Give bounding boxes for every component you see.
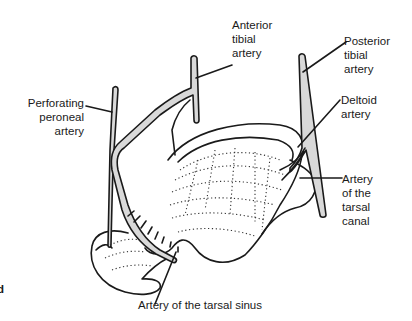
leader-posterior-tibial xyxy=(303,42,346,72)
label-artery-of-tarsal-canal: Artery of the tarsal canal xyxy=(342,172,373,228)
trabecular-stipple xyxy=(105,148,285,270)
label-deltoid-artery: Deltoid artery xyxy=(341,93,377,121)
talus-head-outline xyxy=(91,231,168,294)
leader-anterior-tibial xyxy=(196,65,232,78)
talus-blood-supply-diagram: Anterior tibial artery Posterior tibial … xyxy=(0,0,412,321)
label-perforating-peroneal-artery: Perforating peroneal artery xyxy=(14,96,84,138)
talus-dome-outline xyxy=(145,124,303,262)
label-anterior-tibial-artery: Anterior tibial artery xyxy=(232,18,272,60)
leader-perforating-peroneal xyxy=(86,106,112,112)
label-posterior-tibial-artery: Posterior tibial artery xyxy=(344,34,390,76)
label-artery-of-tarsal-sinus: Artery of the tarsal sinus xyxy=(110,298,290,312)
posterior-process-outline xyxy=(262,160,316,234)
edge-text-fragment: d xyxy=(0,282,4,296)
